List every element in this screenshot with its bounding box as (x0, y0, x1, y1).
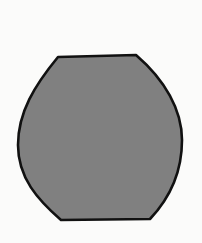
shape-figure (0, 0, 202, 243)
image-canvas (0, 0, 202, 243)
barrel-shape (18, 55, 182, 220)
